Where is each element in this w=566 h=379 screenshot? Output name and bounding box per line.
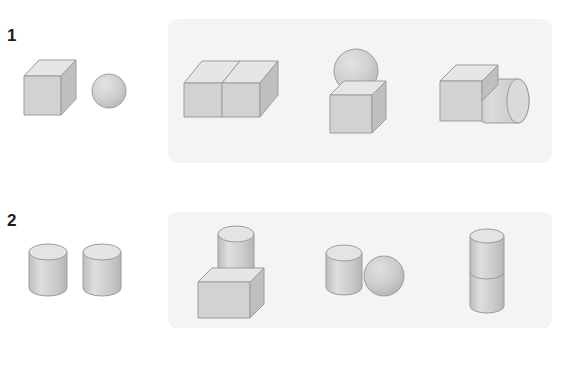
figure-stacked-cylinders	[464, 224, 522, 320]
prompt-row-1	[18, 50, 158, 130]
option-row2-1[interactable]	[168, 212, 296, 328]
question-row-1: 1	[0, 0, 566, 190]
prompt-cylinder-2	[80, 240, 126, 302]
option-row2-2[interactable]	[296, 212, 424, 328]
figure-cylinder-and-sphere	[322, 242, 412, 300]
question-row-2: 2	[0, 190, 566, 379]
option-row2-3[interactable]	[424, 212, 552, 328]
prompt-sphere-1	[90, 72, 128, 110]
figure-cylinder-on-cube	[192, 220, 278, 324]
row-number-1: 1	[7, 27, 16, 44]
figure-sphere-on-cube	[324, 47, 404, 139]
option-row1-1[interactable]	[168, 19, 296, 163]
option-row1-2[interactable]	[296, 19, 424, 163]
options-panel-row-2	[168, 212, 552, 328]
figure-two-cubes	[182, 59, 282, 129]
options-panel-row-1	[168, 19, 552, 163]
option-row1-3[interactable]	[424, 19, 552, 163]
worksheet-stage: 1	[0, 0, 566, 379]
prompt-row-2	[18, 230, 158, 320]
row-number-2: 2	[7, 212, 16, 229]
figure-cube-with-cylinder	[438, 59, 538, 125]
prompt-cube-1	[22, 58, 78, 120]
prompt-cylinder-1	[26, 240, 72, 302]
